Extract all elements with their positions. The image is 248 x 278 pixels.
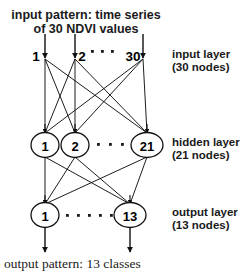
- edge-h2-o13: [75, 157, 130, 204]
- input-caption-line1: input pattern: time series: [11, 8, 160, 22]
- output-node-label-1: 1: [41, 209, 48, 224]
- input-layer-label-line1: input layer: [172, 48, 230, 61]
- ellipsis-dot: [110, 214, 113, 217]
- ellipsis-dot: [121, 143, 124, 146]
- input-node-label-2: 2: [78, 49, 86, 64]
- output-layer-label: output layer (13 nodes): [172, 206, 238, 232]
- hidden-node-label-21: 21: [140, 139, 154, 154]
- ellipsis-dot: [101, 50, 104, 53]
- hidden-layer-label: hidden layer (21 nodes): [172, 136, 240, 162]
- input-layer-ellipsis: [91, 50, 114, 53]
- output-layer-label-line2: (13 nodes): [172, 219, 238, 232]
- input-pattern-caption: input pattern: time series of 30 NDVI va…: [0, 8, 172, 36]
- output-layer-ellipsis: [66, 214, 113, 217]
- output-node-label-13: 13: [123, 209, 137, 224]
- ellipsis-dot: [91, 50, 94, 53]
- ellipsis-dot: [88, 214, 91, 217]
- edge-i30-h21: [143, 59, 147, 133]
- ellipsis-dot: [111, 50, 114, 53]
- hidden-node-label-2: 2: [71, 139, 78, 154]
- ellipsis-dot: [97, 143, 100, 146]
- ellipsis-dot: [77, 214, 80, 217]
- hidden-layer-label-line1: hidden layer: [172, 136, 240, 149]
- edge-h1-o13: [45, 157, 130, 204]
- hidden-output-edges: [45, 157, 147, 204]
- hidden-node-label-1: 1: [41, 139, 48, 154]
- output-edge-arrowheads: [45, 195, 130, 204]
- hidden-layer-label-line2: (21 nodes): [172, 149, 240, 162]
- output-pattern-caption: output pattern: 13 classes: [4, 256, 141, 271]
- ellipsis-dot: [66, 214, 69, 217]
- input-layer-label: input layer (30 nodes): [172, 48, 230, 74]
- input-node-label-1: 1: [32, 49, 40, 64]
- input-node-label-30: 30: [125, 49, 140, 64]
- output-layer-label-line1: output layer: [172, 206, 238, 219]
- input-layer-label-line2: (30 nodes): [172, 61, 230, 74]
- ellipsis-dot: [99, 214, 102, 217]
- hidden-edge-arrowheads: [45, 124, 147, 133]
- input-hidden-edges: [45, 59, 147, 133]
- input-caption-line2: of 30 NDVI values: [0, 22, 172, 36]
- ellipsis-dot: [109, 143, 112, 146]
- output-arrows: [45, 227, 130, 252]
- hidden-layer-ellipsis: [97, 143, 124, 146]
